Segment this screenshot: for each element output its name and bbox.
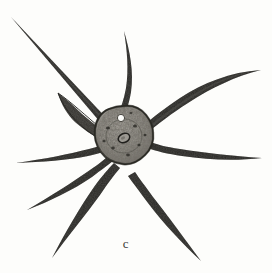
figure-container: c — [0, 0, 272, 273]
contractile-vacuole — [117, 114, 124, 121]
organism-illustration — [0, 0, 272, 273]
figure-label: c — [0, 236, 262, 252]
contractile-vacuole-shine — [119, 116, 122, 119]
